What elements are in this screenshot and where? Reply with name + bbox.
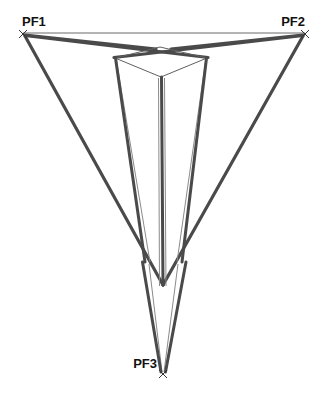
perspective-diagram-svg: PF1 PF2 PF3 <box>0 0 324 395</box>
label-pf3: PF3 <box>133 356 157 371</box>
cube-front-edge-thin-left <box>159 78 160 286</box>
cube-front-edge-thick <box>162 77 164 285</box>
vanishing-point-marker-pf3[interactable] <box>159 370 167 378</box>
guide-pf2-upper-short <box>171 35 303 49</box>
guide-pf1-upper-short <box>25 35 156 49</box>
label-pf2: PF2 <box>281 14 305 29</box>
diagram-canvas: PF1 PF2 PF3 <box>0 0 324 395</box>
cube-left-edge-thick <box>116 58 146 262</box>
vanishing-point-markers-group <box>19 30 309 378</box>
label-pf1: PF1 <box>22 14 46 29</box>
cube-front-edge-thin-right <box>165 78 167 286</box>
vertical-edges-group <box>116 58 207 286</box>
